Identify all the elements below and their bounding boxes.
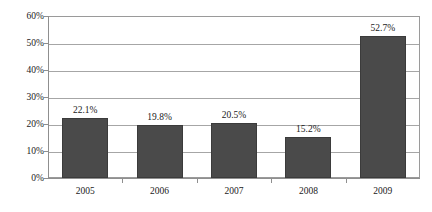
x-axis-line: [48, 178, 420, 179]
x-tick-label: 2007: [204, 186, 264, 197]
y-tick-label: 40%: [4, 65, 44, 75]
x-tick-mark: [271, 179, 272, 183]
y-tick-label: 30%: [4, 92, 44, 102]
y-tick-mark: [44, 151, 48, 152]
x-tick-label: 2008: [278, 186, 338, 197]
bar: [211, 123, 257, 178]
x-tick-mark: [346, 179, 347, 183]
y-tick-label: 20%: [4, 119, 44, 129]
bar-value-label: 20.5%: [204, 110, 264, 121]
bar-value-label: 15.2%: [278, 124, 338, 135]
x-tick-label: 2009: [353, 186, 413, 197]
y-axis-line: [48, 16, 49, 179]
x-tick-label: 2006: [130, 186, 190, 197]
x-tick-mark: [197, 179, 198, 183]
x-tick-mark: [122, 179, 123, 183]
bar-value-label: 52.7%: [353, 23, 413, 34]
bar: [137, 125, 183, 178]
y-tick-mark: [44, 16, 48, 17]
bar: [360, 36, 406, 178]
y-tick-label: 0%: [4, 173, 44, 183]
bar-value-label: 19.8%: [130, 112, 190, 123]
bar-chart: 0%10%20%30%40%50%60% 2005200620072008200…: [0, 0, 432, 212]
bar-value-label: 22.1%: [55, 105, 115, 116]
y-tick-mark: [44, 70, 48, 71]
y-tick-mark: [44, 43, 48, 44]
bar: [62, 118, 108, 178]
y-tick-label: 60%: [4, 11, 44, 21]
y-tick-label: 10%: [4, 146, 44, 156]
x-tick-label: 2005: [55, 186, 115, 197]
y-tick-label: 50%: [4, 38, 44, 48]
y-tick-mark: [44, 97, 48, 98]
y-tick-mark: [44, 124, 48, 125]
bar: [285, 137, 331, 178]
